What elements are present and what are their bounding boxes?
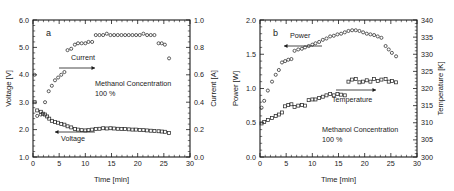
y-right-tick-label: 0.2 xyxy=(194,125,204,134)
data-point xyxy=(263,99,266,102)
y-left-tick-label: 1.5 xyxy=(246,50,256,59)
data-point xyxy=(293,49,296,52)
data-point xyxy=(131,128,134,131)
x-tick-label: 20 xyxy=(134,159,142,168)
data-point xyxy=(109,34,112,37)
panel-a: 0510152025301.02.03.04.05.06.00.00.20.40… xyxy=(0,0,227,191)
data-point xyxy=(127,34,130,37)
x-tick-label: 30 xyxy=(413,159,421,168)
data-point xyxy=(135,34,138,37)
x-tick-label: 30 xyxy=(186,159,194,168)
series-current xyxy=(33,32,171,117)
data-point xyxy=(384,77,387,80)
data-point xyxy=(318,40,321,43)
current-series-label: Current xyxy=(71,53,95,62)
data-point xyxy=(57,121,60,124)
y-left-tick-label: 2.0 xyxy=(246,16,256,25)
data-point xyxy=(149,34,152,37)
y-left-tick-label: 2.0 xyxy=(19,125,29,134)
data-point xyxy=(365,79,368,82)
data-point xyxy=(47,90,50,93)
data-point xyxy=(127,128,130,131)
data-point xyxy=(280,111,283,114)
y-right-tick-label: 0.0 xyxy=(194,153,204,162)
data-point xyxy=(297,48,300,51)
y-left-tick-label: 1.0 xyxy=(246,84,256,93)
y-right-tick-label: 1.0 xyxy=(194,16,204,25)
x-tick-label: 0 xyxy=(31,159,35,168)
y-left-tick-label: 5.0 xyxy=(19,43,29,52)
data-point xyxy=(325,94,328,97)
data-point xyxy=(113,34,116,37)
data-point xyxy=(354,77,357,80)
data-point xyxy=(362,31,365,34)
data-point xyxy=(380,78,383,81)
data-point xyxy=(163,43,166,46)
x-tick-label: 25 xyxy=(387,159,395,168)
y-right-tick-label: 310 xyxy=(421,118,433,127)
power-series-label: Power xyxy=(290,31,311,40)
data-point xyxy=(287,58,290,61)
y-right-tick-label: 0.8 xyxy=(194,43,204,52)
voltage-series-label: Voltage xyxy=(61,134,85,143)
x-tick-label: 0 xyxy=(258,159,262,168)
current-arrow-head xyxy=(92,66,96,70)
panel-a-plot: 0510152025301.02.03.04.05.06.00.00.20.40… xyxy=(0,0,227,191)
data-point xyxy=(36,114,39,117)
data-point xyxy=(293,105,296,108)
data-point xyxy=(395,81,398,84)
data-point xyxy=(300,47,303,50)
data-point xyxy=(87,40,90,43)
data-point xyxy=(84,42,87,45)
data-point xyxy=(347,29,350,32)
x-tick-label: 15 xyxy=(108,159,116,168)
panel-letter: a xyxy=(46,28,51,38)
data-point xyxy=(351,78,354,81)
data-point xyxy=(80,129,83,132)
y-left-tick-label: 1.0 xyxy=(19,153,29,162)
y-left-tick-label: 0.5 xyxy=(246,118,256,127)
y-right-tick-label: 300 xyxy=(421,153,433,162)
methanol-concentration-label: Methanol Concentration xyxy=(322,125,398,134)
x-tick-label: 5 xyxy=(284,159,288,168)
data-point xyxy=(160,130,163,133)
data-point xyxy=(280,61,283,64)
data-point xyxy=(311,98,314,101)
data-point xyxy=(266,89,269,92)
data-point xyxy=(94,34,97,37)
y-left-axis-title: Power [W] xyxy=(231,71,240,106)
data-point xyxy=(102,34,105,37)
data-point xyxy=(287,103,290,106)
data-point xyxy=(98,34,101,37)
data-point xyxy=(60,123,63,126)
y-right-tick-label: 340 xyxy=(421,16,433,25)
data-point xyxy=(390,79,393,82)
data-point xyxy=(343,31,346,34)
y-left-tick-label: 0.0 xyxy=(246,153,256,162)
data-point xyxy=(36,109,39,112)
y-right-tick-label: 320 xyxy=(421,84,433,93)
data-point xyxy=(157,130,160,133)
data-point xyxy=(307,99,310,102)
data-point xyxy=(390,51,393,54)
data-point xyxy=(73,128,76,131)
data-point xyxy=(290,103,293,106)
data-point xyxy=(168,131,171,134)
x-tick-label: 10 xyxy=(308,159,316,168)
data-point xyxy=(340,32,343,35)
data-point xyxy=(109,127,112,130)
data-point xyxy=(329,35,332,38)
data-point xyxy=(163,130,166,133)
temperature-arrow-head xyxy=(373,88,377,92)
data-point xyxy=(102,127,105,130)
data-point xyxy=(336,33,339,36)
data-point xyxy=(76,42,79,45)
data-point xyxy=(321,38,324,41)
data-point xyxy=(80,42,83,45)
data-point xyxy=(395,55,398,58)
y-right-tick-label: 0.4 xyxy=(194,98,204,107)
x-tick-label: 20 xyxy=(361,159,369,168)
data-point xyxy=(284,60,287,63)
data-point xyxy=(138,34,141,37)
temperature-series-label: Temperature xyxy=(332,95,372,104)
